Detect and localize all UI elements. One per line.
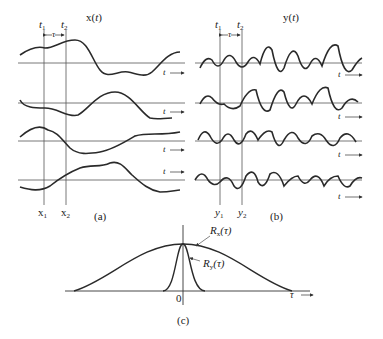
panel-a-t2-label: t2 [61,19,68,32]
panel-a-axis-label: t [163,167,166,176]
figure-graphics [0,0,383,339]
panel-c-caption: (c) [177,315,189,326]
panel-a-graphics [18,30,185,205]
panel-b-t1-label: t1 [215,19,222,32]
panel-a-axis-label: t [163,68,166,77]
y1-label: y1 [215,207,223,220]
panel-b-caption: (b) [270,211,283,222]
ry-curve [163,244,205,291]
panel-a-axis-label: t [163,107,166,116]
x2-label: x2 [61,207,70,220]
origin-label: 0 [176,293,182,304]
panel-a-t1-label: t1 [39,19,46,32]
x1-label: x1 [38,207,47,220]
panel-b-title: y(t) [283,12,299,23]
panel-b-axis-label: t [338,112,341,121]
panel-b-t2-label: t2 [237,19,244,32]
panel-c-graphics [65,225,313,305]
rx-label: Rx(τ) [210,225,232,238]
ry-label: Ry(τ) [203,258,225,271]
panel-b-axis-label: t [338,150,341,159]
panel-b-axis-label: t [338,70,341,79]
panel-a-axis-label: t [163,145,166,154]
tau-axis-label: τ [290,290,294,300]
panel-a-tau-label: τ [52,30,55,39]
panel-b-axis-label: t [338,192,341,201]
panel-b-tau-label: τ [228,30,231,39]
panel-a-title: x(t) [86,12,102,23]
autocorrelation-figure: x(t) t1 t2 τ t t t t x1 x2 (a) y(t) t1 t… [0,0,383,339]
y2-label: y2 [238,207,246,220]
panel-a-caption: (a) [94,211,106,222]
panel-b-graphics [195,30,362,205]
